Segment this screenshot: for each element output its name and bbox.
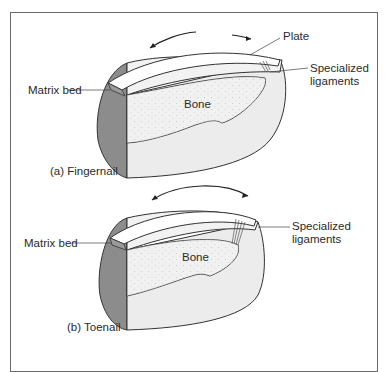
ligaments-label-bottom-line2: ligaments (292, 233, 341, 246)
ligaments-label-top-line2: ligaments (310, 75, 359, 88)
bone-label-top: Bone (184, 98, 211, 111)
matrix-bed-label-bottom: Matrix bed (24, 237, 78, 250)
matrix-bed-label-top: Matrix bed (28, 84, 82, 97)
ligaments-label-top-line1: Specialized (310, 62, 369, 75)
bone-label-bottom: Bone (182, 251, 209, 264)
ligaments-label-bottom-line1: Specialized (292, 220, 351, 233)
plate-label: Plate (283, 30, 309, 43)
fingernail-caption: (a) Fingernail (50, 165, 118, 178)
toenail-caption: (b) Toenail (67, 321, 121, 334)
toenail-illustration (72, 186, 290, 330)
